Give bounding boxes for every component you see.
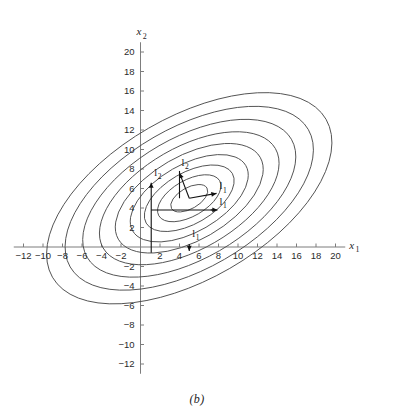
x-axis-tick-label: 12 — [252, 250, 263, 261]
svg-text:1: 1 — [223, 201, 227, 210]
y-axis-tick-label: 6 — [129, 183, 134, 194]
x-axis-tick-label: 20 — [330, 250, 341, 261]
x-axis-tick-label: 16 — [291, 250, 302, 261]
tick-labels-layer: −12−10−8−6−4−22468101214161820−12−10−8−6… — [15, 46, 340, 369]
svg-text:l: l — [192, 228, 195, 239]
x-axis-tick-label: −4 — [96, 250, 107, 261]
x-axis-tick-label: 8 — [216, 250, 221, 261]
x-axis-tick-label: 10 — [233, 250, 244, 261]
svg-text:1: 1 — [223, 186, 227, 195]
l2-minor-arrow — [179, 173, 189, 198]
contour-plot: l1l2l1l1l2 −12−10−8−6−4−2246810121416182… — [0, 0, 394, 419]
l1-projection-y-arrow — [211, 208, 218, 213]
x-axis-tick-label: 6 — [196, 250, 201, 261]
x-axis-tick-label: 4 — [177, 250, 182, 261]
y-axis-tick-label: 4 — [129, 202, 134, 213]
x-axis-tick-label: −2 — [116, 250, 127, 261]
annotations-layer: l1l2l1l1l2 — [149, 157, 227, 253]
y-axis-tick-label: −2 — [124, 261, 135, 272]
x-axis-tick-label: −10 — [35, 250, 51, 261]
y-axis-tick-label: −10 — [118, 339, 134, 350]
y-axis-tick-label: 2 — [129, 222, 134, 233]
y-axis-label: x2 — [136, 25, 147, 40]
svg-text:2: 2 — [143, 32, 147, 41]
l1-major-label: l1 — [219, 180, 227, 194]
x-axis-tick-label: 14 — [272, 250, 283, 261]
x-axis-tick-label: 2 — [157, 250, 162, 261]
svg-text:l: l — [181, 157, 184, 168]
y-axis-tick-label: 18 — [124, 66, 135, 77]
x-axis-tick-label: −8 — [57, 250, 68, 261]
y-axis-tick-label: 10 — [124, 144, 135, 155]
svg-text:2: 2 — [158, 172, 162, 181]
svg-text:l: l — [154, 167, 157, 178]
l2-minor-label: l2 — [181, 157, 189, 171]
x-axis-label: x1 — [348, 239, 359, 254]
y-axis-tick-label: −8 — [124, 319, 135, 330]
x-axis-tick-label: −6 — [77, 250, 88, 261]
y-axis-tick-label: 8 — [129, 163, 134, 174]
y-axis-tick-label: −4 — [124, 280, 135, 291]
svg-text:x: x — [136, 25, 142, 37]
svg-text:l: l — [219, 196, 222, 207]
figure-caption: (b) — [0, 392, 394, 407]
x-axis-tick-label: −12 — [15, 250, 31, 261]
y-axis-tick-label: 12 — [124, 124, 135, 135]
l1-major-arrow — [189, 192, 216, 198]
svg-text:1: 1 — [196, 233, 200, 242]
l1-projection-x-label: l1 — [192, 228, 200, 242]
figure-container: l1l2l1l1l2 −12−10−8−6−4−2246810121416182… — [0, 0, 394, 419]
l2-projection-y-label: l2 — [154, 167, 162, 181]
l1-projection-y-label: l1 — [219, 196, 227, 210]
y-axis-tick-label: 20 — [124, 46, 135, 57]
y-axis-tick-label: −12 — [118, 358, 134, 369]
y-axis-tick-label: 14 — [124, 105, 135, 116]
y-axis-tick-label: −6 — [124, 300, 135, 311]
axes-layer — [14, 42, 346, 374]
x-axis-tick-label: 18 — [311, 250, 322, 261]
svg-text:l: l — [219, 180, 222, 191]
svg-text:x: x — [348, 239, 354, 251]
y-axis-tick-label: 16 — [124, 85, 135, 96]
svg-text:1: 1 — [355, 245, 359, 254]
svg-text:2: 2 — [185, 162, 189, 171]
